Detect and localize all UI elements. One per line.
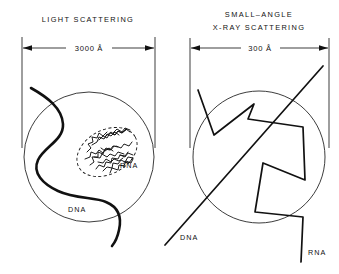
dna-label: DNA [180, 233, 198, 242]
figure-canvas: LIGHT SCATTERING 3000 Å DNA [0, 0, 339, 274]
dimension-arrowhead-right [145, 45, 154, 51]
panel-title-line-2: X-RAY SCATTERING [213, 23, 306, 32]
rna-label: RNA [120, 161, 138, 170]
dimension-label-3000-angstrom: 3000 Å [75, 44, 104, 53]
panel-small-angle-x-ray-scattering: SMALL–ANGLE X-RAY SCATTERING 300 Å DNA R… [165, 10, 329, 262]
dimension-arrowhead-right [319, 45, 328, 51]
panel-title-line-1: SMALL–ANGLE [225, 10, 293, 19]
rna-coil-envelope [68, 118, 145, 187]
dimension-arrowhead-left [23, 45, 32, 51]
rna-chain-polyline [198, 90, 305, 262]
dna-label: DNA [68, 205, 86, 214]
panel-title-light-scattering: LIGHT SCATTERING [42, 15, 134, 24]
scattering-comparison-figure: LIGHT SCATTERING 3000 Å DNA [0, 0, 339, 274]
dimension-label-300-angstrom: 300 Å [248, 44, 272, 53]
dimension-arrowhead-left [191, 45, 200, 51]
rna-label: RNA [308, 248, 326, 257]
scattering-volume-circle [193, 91, 325, 223]
panel-light-scattering: LIGHT SCATTERING 3000 Å DNA [22, 15, 155, 246]
